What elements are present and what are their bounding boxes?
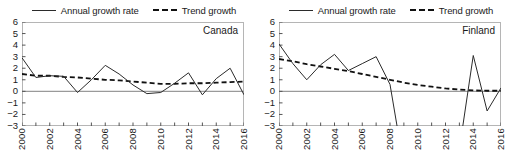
y-tick-label: 5 xyxy=(270,29,275,39)
plot-svg-canada xyxy=(22,22,244,126)
x-tick-label: 2016 xyxy=(496,128,506,150)
y-tick-label: 6 xyxy=(13,17,18,27)
y-tick-label: 1 xyxy=(270,75,275,85)
y-tick-label: 0 xyxy=(13,87,18,97)
x-tick-label: 2002 xyxy=(302,128,312,150)
y-tick-label: 1 xyxy=(13,75,18,85)
plot-frame-canada xyxy=(23,23,244,126)
x-tick-label: 2004 xyxy=(73,128,83,150)
x-tick-label: 2004 xyxy=(330,128,340,150)
plot-area-finland: Finland xyxy=(279,22,501,126)
y-axis-tick-labels-canada: 6543210−1−2−3 xyxy=(0,22,20,126)
y-tick-label: 4 xyxy=(13,40,18,50)
legend-entry-annual-growth-rate: Annual growth rate xyxy=(32,5,139,16)
x-tick-label: 2010 xyxy=(156,128,166,150)
x-tick-label: 2000 xyxy=(17,128,27,150)
x-tick-label: 2010 xyxy=(413,128,423,150)
panel-title-canada: Canada xyxy=(203,25,238,36)
y-tick-label: 6 xyxy=(270,17,275,27)
legend-canada: Annual growth rate Trend growth xyxy=(14,2,254,18)
y-tick-label: 2 xyxy=(270,63,275,73)
y-tick-label: 5 xyxy=(13,29,18,39)
legend-key-annual-growth-rate-icon xyxy=(32,7,56,14)
x-axis-tick-labels-finland: 200020022004200620082010201220142016 xyxy=(279,128,501,166)
x-tick-label: 2014 xyxy=(468,128,478,150)
x-tick-label: 2002 xyxy=(45,128,55,150)
legend-key-trend-growth-icon xyxy=(153,7,177,14)
legend-label-annual-growth-rate: Annual growth rate xyxy=(318,5,396,16)
legend-finland: Annual growth rate Trend growth xyxy=(271,2,511,18)
x-axis-tick-labels-canada: 200020022004200620082010201220142016 xyxy=(22,128,244,166)
x-tick-label: 2012 xyxy=(441,128,451,150)
legend-label-trend-growth: Trend growth xyxy=(182,5,236,16)
legend-entry-trend-growth: Trend growth xyxy=(153,5,236,16)
y-tick-label: −1 xyxy=(7,98,18,108)
legend-label-trend-growth: Trend growth xyxy=(439,5,493,16)
y-tick-label: 2 xyxy=(13,63,18,73)
legend-label-annual-growth-rate: Annual growth rate xyxy=(61,5,139,16)
x-tick-label: 2000 xyxy=(274,128,284,150)
panel-title-finland: Finland xyxy=(462,25,495,36)
legend-key-annual-growth-rate-icon xyxy=(289,7,313,14)
x-tick-label: 2008 xyxy=(128,128,138,150)
x-tick-label: 2008 xyxy=(385,128,395,150)
y-tick-label: −1 xyxy=(264,98,275,108)
figure-two-panel-growth-charts: Annual growth rate Trend growth 6543210−… xyxy=(0,0,514,166)
x-tick-label: 2014 xyxy=(211,128,221,150)
chart-panel-canada: Annual growth rate Trend growth 6543210−… xyxy=(0,0,257,166)
y-axis-tick-labels-finland: 6543210−1−2−3 xyxy=(257,22,277,126)
x-tick-label: 2016 xyxy=(239,128,249,150)
y-tick-label: 0 xyxy=(270,87,275,97)
legend-key-trend-growth-icon xyxy=(410,7,434,14)
plot-area-canada: Canada xyxy=(22,22,244,126)
chart-panel-finland: Annual growth rate Trend growth 6543210−… xyxy=(257,0,514,166)
x-tick-label: 2006 xyxy=(100,128,110,150)
y-tick-label: −2 xyxy=(7,110,18,120)
x-tick-label: 2006 xyxy=(357,128,367,150)
legend-entry-annual-growth-rate: Annual growth rate xyxy=(289,5,396,16)
y-tick-label: −2 xyxy=(264,110,275,120)
y-tick-label: 3 xyxy=(13,52,18,62)
plot-svg-finland xyxy=(279,22,501,126)
y-tick-label: 4 xyxy=(270,40,275,50)
x-tick-label: 2012 xyxy=(184,128,194,150)
y-tick-label: 3 xyxy=(270,52,275,62)
legend-entry-trend-growth: Trend growth xyxy=(410,5,493,16)
